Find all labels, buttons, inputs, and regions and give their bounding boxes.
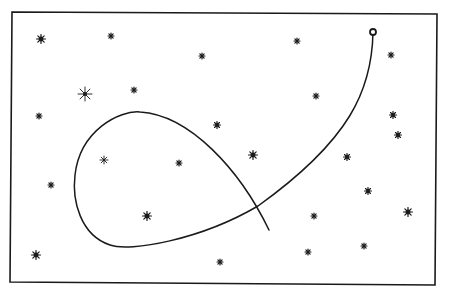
- star-icon: [37, 35, 46, 44]
- star-icon: [313, 93, 319, 99]
- star-icon: [78, 87, 92, 101]
- diagram-frame: [10, 12, 437, 285]
- star-icon: [48, 182, 54, 188]
- star-icon: [108, 33, 114, 39]
- trajectory-curve: [74, 32, 373, 247]
- star-icon: [388, 52, 394, 58]
- star-icon: [143, 212, 152, 221]
- star-icon: [100, 156, 108, 164]
- star-icon: [361, 243, 367, 249]
- star-icon: [176, 160, 182, 166]
- diagram-canvas: [0, 0, 449, 296]
- star-icon: [199, 53, 205, 59]
- star-icon: [344, 154, 351, 161]
- star-icon: [404, 208, 413, 217]
- star-icon: [131, 87, 137, 93]
- start-marker-icon: [370, 29, 376, 35]
- star-icon: [249, 151, 258, 160]
- star-icon: [32, 251, 41, 260]
- star-icon: [311, 213, 317, 219]
- star-icon: [390, 112, 397, 119]
- star-icon: [395, 132, 402, 139]
- star-icon: [36, 113, 42, 119]
- star-icon: [305, 249, 311, 255]
- star-icon: [214, 122, 221, 129]
- star-icon: [217, 259, 223, 265]
- star-icon: [365, 188, 372, 195]
- star-icon: [294, 38, 300, 44]
